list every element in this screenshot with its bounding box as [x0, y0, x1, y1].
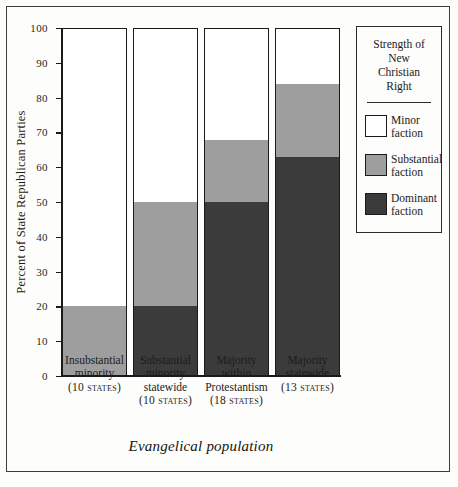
- bar-segment: [276, 84, 339, 157]
- legend-item-2[interactable]: Substantialfaction: [357, 153, 441, 179]
- y-axis-tick-label: 50: [36, 196, 48, 208]
- bar-1[interactable]: [62, 28, 127, 376]
- y-axis-tick-label: 20: [36, 300, 48, 312]
- plot-area: 1009080706050403020100: [62, 28, 340, 376]
- legend-label-line: Substantial: [391, 153, 442, 166]
- category-state-count: (13 states): [261, 381, 354, 394]
- legend-label-line: Dominant: [391, 192, 437, 205]
- bar-segment: [276, 157, 339, 375]
- bar-3[interactable]: [204, 28, 269, 376]
- legend-title-line: Christian: [361, 65, 437, 79]
- legend-label-line: faction: [391, 166, 442, 179]
- legend-title-line: Strength of: [361, 37, 437, 51]
- figure-container: Percent of State Republican Parties 1009…: [0, 0, 458, 487]
- y-axis-tick-label: 10: [36, 335, 48, 347]
- y-axis-tick-label: 70: [36, 126, 48, 138]
- bar-segment: [205, 202, 268, 375]
- legend-swatch: [365, 193, 387, 215]
- y-axis-tick-label: 60: [36, 161, 48, 173]
- y-axis-tick-label: 30: [36, 265, 48, 277]
- y-axis-tick: 50: [56, 202, 61, 203]
- legend-swatch: [365, 154, 387, 176]
- y-axis-title: Percent of State Republican Parties: [14, 28, 32, 376]
- bar-4[interactable]: [275, 28, 340, 376]
- category-state-count: (18 states): [190, 394, 283, 407]
- legend-title-line: Right: [361, 79, 437, 93]
- legend-title-line: New: [361, 51, 437, 65]
- bar-2[interactable]: [133, 28, 198, 376]
- legend-items: MinorfactionSubstantialfactionDominantfa…: [357, 114, 441, 218]
- y-axis-tick: 20: [56, 306, 61, 307]
- bar-segment: [63, 29, 126, 306]
- y-axis-tick: 10: [56, 341, 61, 342]
- bar-segment: [134, 202, 197, 306]
- y-axis-tick: 40: [56, 237, 61, 238]
- bar-segment: [276, 29, 339, 84]
- y-axis-tick-label: 40: [36, 231, 48, 243]
- y-axis-tick: 60: [56, 167, 61, 168]
- y-axis-tick: 100: [56, 28, 61, 29]
- legend: Strength ofNewChristianRight Minorfactio…: [356, 26, 442, 233]
- legend-divider: [367, 102, 431, 103]
- y-axis-tick: 90: [56, 63, 61, 64]
- y-axis-tick: 70: [56, 132, 61, 133]
- legend-item-1[interactable]: Minorfaction: [357, 114, 441, 140]
- category-label-line: Majority: [261, 354, 354, 367]
- y-axis-tick-label: 100: [30, 22, 48, 34]
- legend-label-line: faction: [391, 205, 437, 218]
- legend-label: Substantialfaction: [391, 153, 442, 179]
- y-axis-tick-label: 90: [36, 57, 48, 69]
- legend-swatch: [365, 115, 387, 137]
- x-axis-title: Evangelical population: [62, 438, 340, 455]
- legend-label: Minorfaction: [391, 114, 423, 140]
- legend-label-line: faction: [391, 127, 423, 140]
- bar-segment: [205, 29, 268, 140]
- legend-item-3[interactable]: Dominantfaction: [357, 192, 441, 218]
- y-axis-tick: 80: [56, 98, 61, 99]
- legend-label-line: Minor: [391, 114, 423, 127]
- bar-segment: [205, 140, 268, 202]
- y-axis-tick: 30: [56, 272, 61, 273]
- category-label-line: statewide: [261, 367, 354, 380]
- legend-title: Strength ofNewChristianRight: [357, 37, 441, 93]
- bar-segment: [134, 29, 197, 202]
- y-axis-tick-label: 80: [36, 91, 48, 103]
- category-label-4: Majoritystatewide(13 states): [261, 354, 354, 394]
- legend-label: Dominantfaction: [391, 192, 437, 218]
